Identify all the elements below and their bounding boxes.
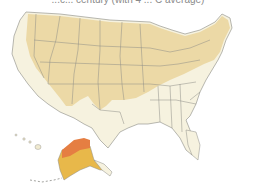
us-map [0, 0, 256, 191]
florida [186, 130, 200, 160]
hawaii [15, 134, 41, 150]
aleutian-islands [30, 178, 62, 182]
